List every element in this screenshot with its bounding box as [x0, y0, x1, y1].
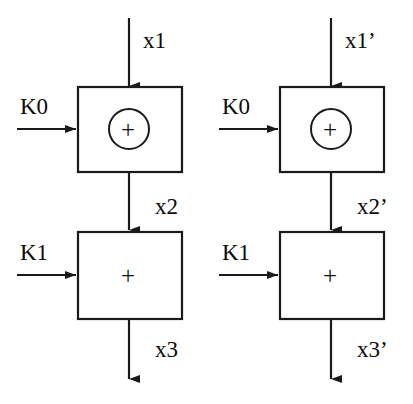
right-stage2-key-label: K1	[222, 241, 250, 264]
right-stage1-plus-icon: +	[323, 117, 337, 142]
left-stage1-key-label: K0	[20, 95, 48, 118]
right-stage1-key-label: K0	[222, 95, 250, 118]
left-stage1-plus-icon: +	[121, 117, 135, 142]
left-output-label: x3	[155, 338, 178, 361]
diagram-vector-layer	[0, 0, 413, 404]
left-stage2-key-label: K1	[20, 241, 48, 264]
left-stage2-plus-icon: +	[121, 263, 135, 288]
right-interstage-label: x2’	[357, 195, 388, 218]
left-interstage-label: x2	[155, 195, 178, 218]
right-input-label: x1’	[345, 29, 376, 52]
right-stage2-plus-icon: +	[323, 263, 337, 288]
diagram-canvas: x1 K0 + x2 K1 + x3 x1’ K0 + x2’ K1 + x3’	[0, 0, 413, 404]
left-input-label: x1	[143, 29, 166, 52]
right-output-label: x3’	[357, 338, 388, 361]
